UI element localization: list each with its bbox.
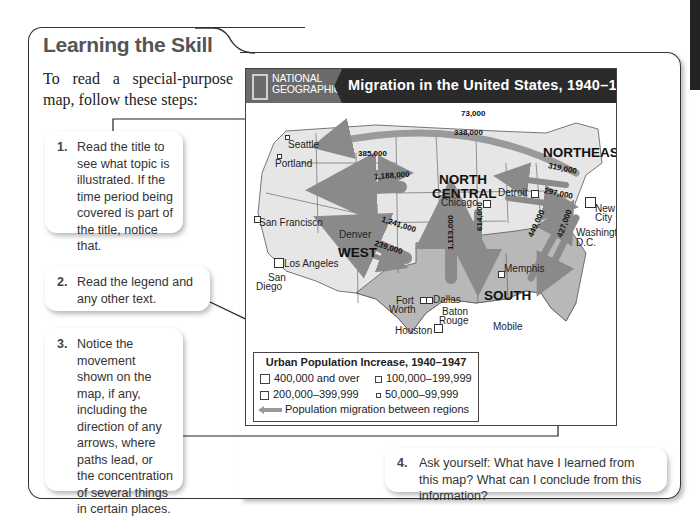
city-chicago: Chicago [441, 197, 478, 208]
region-south: SOUTH [484, 288, 531, 303]
legend-title: Urban Population Increase, 1940–1947 [254, 356, 478, 368]
step-4-card: 4. Ask yourself: What have I learned fro… [385, 448, 667, 492]
migration-arrow-icon [258, 406, 282, 414]
map-legend: Urban Population Increase, 1940–1947 400… [253, 352, 479, 422]
city-marker-chicago [483, 200, 491, 208]
city-marker-houston [434, 324, 443, 333]
tiny-square-icon [376, 393, 381, 398]
medium-square-icon [260, 391, 269, 400]
step-number: 1. [57, 139, 67, 156]
publisher-line-2: GEOGRAPHIC [272, 84, 341, 95]
step-text: Notice the movement shown on the map, if… [77, 336, 173, 518]
city-memphis: Memphis [504, 263, 545, 274]
step-number: 2. [57, 274, 67, 291]
city-dallas: Dallas [433, 294, 461, 305]
legend-item-migration: Population migration between regions [258, 403, 469, 415]
city-washington-2: D.C. [576, 237, 596, 248]
migration-map: NATIONAL GEOGRAPHIC Migration in the Uni… [245, 68, 617, 426]
large-square-icon [260, 374, 270, 384]
ng-yellow-border-icon [252, 74, 268, 100]
region-northeast: NORTHEAST [543, 145, 617, 160]
city-houston: Houston [395, 325, 432, 336]
step-text: Read the title to see what topic is illu… [77, 139, 173, 255]
step-text: Read the legend and any other text. [77, 274, 200, 307]
city-san-francisco: San Francisco [259, 217, 323, 228]
legend-item-50k: 50,000–99,999 [376, 388, 458, 400]
city-marker-detroit [531, 190, 539, 198]
region-west: WEST [338, 245, 377, 260]
step-text: Ask yourself: What have I learned from t… [419, 455, 657, 505]
flow-label: 338,000 [454, 128, 483, 137]
city-denver: Denver [339, 229, 371, 240]
step-2-card: 2. Read the legend and any other text. [45, 266, 210, 311]
city-san-diego-2: Diego [256, 281, 282, 292]
step-number: 3. [57, 336, 67, 353]
legend-item-100k: 100,000–199,999 [375, 372, 472, 384]
city-mobile: Mobile [493, 321, 522, 332]
city-seattle: Seattle [288, 139, 319, 150]
city-baton-rouge-2: Rouge [439, 315, 468, 326]
region-north-central-1: NORTH [439, 172, 487, 187]
city-marker-los-angeles [274, 258, 284, 268]
legend-item-400k: 400,000 and over [260, 372, 360, 384]
flow-label: 614,000 [475, 202, 484, 231]
city-los-angeles: Los Angeles [284, 258, 339, 269]
step-3-card: 3. Notice the movement shown on the map,… [45, 328, 183, 491]
city-marker-memphis [498, 271, 505, 278]
city-marker-dallas [426, 297, 433, 304]
map-header: NATIONAL GEOGRAPHIC Migration in the Uni… [246, 69, 616, 103]
legend-item-200k: 200,000–399,999 [260, 388, 359, 400]
flow-label: 385,000 [358, 149, 387, 158]
national-geographic-logo: NATIONAL GEOGRAPHIC [246, 69, 342, 103]
step-number: 4. [397, 455, 407, 472]
flow-label: 1,113,000 [446, 215, 455, 250]
flow-label: 73,000 [461, 109, 485, 118]
small-square-icon [375, 376, 382, 383]
city-detroit: Detroit [498, 187, 527, 198]
city-portland: Portland [275, 158, 312, 169]
map-title: Migration in the United States, 1940–195… [348, 77, 617, 93]
city-fort-worth-2: Worth [389, 304, 416, 315]
step-1-card: 1. Read the title to see what topic is i… [45, 131, 183, 233]
city-new-york-2: City [595, 212, 612, 223]
